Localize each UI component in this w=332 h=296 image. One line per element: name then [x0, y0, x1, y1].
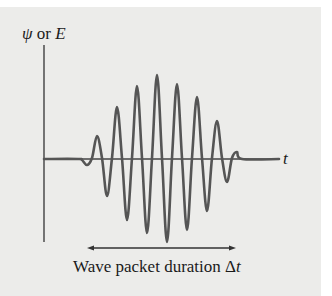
wave-packet-curve: [44, 75, 279, 242]
wave-packet-plot: [0, 0, 332, 296]
delta-t-symbol: Δt: [225, 257, 241, 276]
duration-arrow: [87, 246, 236, 251]
arrowhead-left-icon: [87, 246, 94, 251]
arrowhead-right-icon: [229, 246, 236, 251]
x-axis-label: t: [283, 149, 288, 169]
or-text: or: [33, 24, 56, 43]
psi-symbol: ψ: [22, 24, 33, 43]
e-symbol: E: [55, 24, 65, 43]
y-axis-label: ψ or E: [22, 24, 66, 44]
caption-text: Wave packet duration: [73, 257, 225, 276]
duration-caption: Wave packet duration Δt: [73, 257, 241, 277]
